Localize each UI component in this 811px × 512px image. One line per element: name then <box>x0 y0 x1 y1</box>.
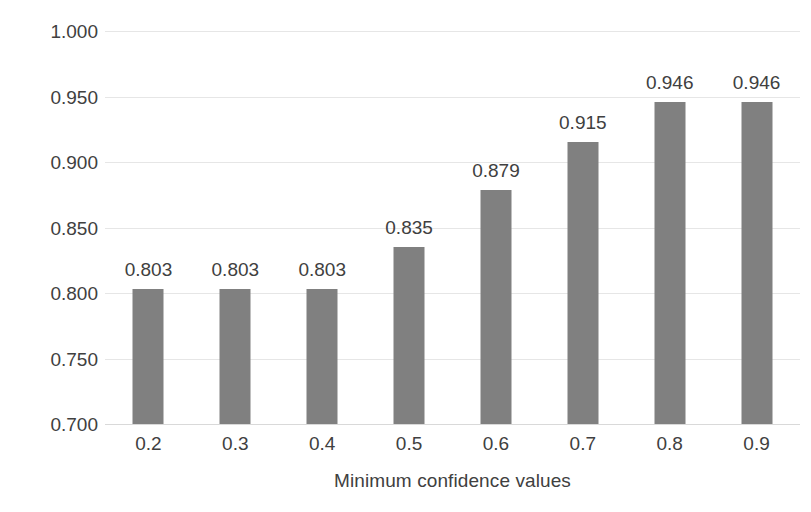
y-axis-tick-label: 0.950 <box>26 87 98 106</box>
bar-slot: 0.946 <box>626 31 713 424</box>
y-axis-tick-labels: 1.0000.9500.9000.8500.8000.7500.700 <box>26 0 98 512</box>
bar[interactable] <box>480 190 511 424</box>
bar[interactable] <box>307 289 338 424</box>
bars-layer: 0.8030.8030.8030.8350.8790.9150.9460.946 <box>105 31 800 424</box>
bar-chart: Precision 1.0000.9500.9000.8500.8000.750… <box>0 0 811 512</box>
bar[interactable] <box>220 289 251 424</box>
bar-value-label: 0.946 <box>733 73 781 92</box>
x-axis-tick-label: 0.5 <box>396 433 422 456</box>
bar[interactable] <box>394 247 425 424</box>
x-axis-tick-label: 0.4 <box>309 433 335 456</box>
bar-value-label: 0.803 <box>298 260 346 279</box>
x-axis-tick-label: 0.7 <box>570 433 596 456</box>
bar[interactable] <box>567 142 598 424</box>
y-axis-tick-label: 0.850 <box>26 218 98 237</box>
x-axis-tick-labels: 0.20.30.40.50.60.70.80.9 <box>105 433 800 461</box>
y-axis-tick-label: 0.700 <box>26 415 98 434</box>
bar-slot: 0.946 <box>713 31 800 424</box>
bar-value-label: 0.915 <box>559 113 607 132</box>
bar-value-label: 0.946 <box>646 73 694 92</box>
x-axis-tick-label: 0.9 <box>743 433 769 456</box>
x-axis-tick-label: 0.3 <box>222 433 248 456</box>
x-axis-tick-label: 0.2 <box>135 433 161 456</box>
bar-value-label: 0.803 <box>212 260 260 279</box>
y-axis-tick-label: 0.750 <box>26 349 98 368</box>
y-axis-tick-label: 0.800 <box>26 284 98 303</box>
bar-slot: 0.915 <box>539 31 626 424</box>
bar-slot: 0.803 <box>192 31 279 424</box>
y-axis-tick-label: 0.900 <box>26 153 98 172</box>
bar-value-label: 0.835 <box>385 218 433 237</box>
bar-slot: 0.803 <box>105 31 192 424</box>
x-axis-title: Minimum confidence values <box>105 470 800 492</box>
bar-slot: 0.879 <box>453 31 540 424</box>
x-axis-tick-label: 0.6 <box>483 433 509 456</box>
bar-slot: 0.835 <box>366 31 453 424</box>
bar-slot: 0.803 <box>279 31 366 424</box>
bar[interactable] <box>133 289 164 424</box>
bar[interactable] <box>654 102 685 424</box>
gridline <box>105 424 800 425</box>
bar-value-label: 0.803 <box>125 260 173 279</box>
bar-value-label: 0.879 <box>472 161 520 180</box>
y-axis-tick-label: 1.000 <box>26 22 98 41</box>
x-axis-tick-label: 0.8 <box>656 433 682 456</box>
bar[interactable] <box>741 102 772 424</box>
